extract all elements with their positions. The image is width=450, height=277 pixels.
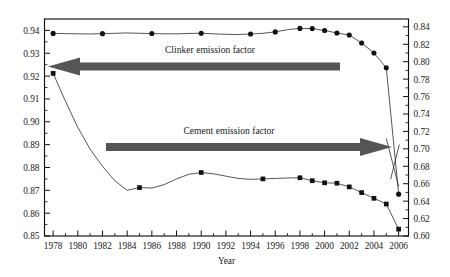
callout-line-clinker [386, 138, 398, 186]
left-axis-tick-label: 0.88 [23, 163, 40, 173]
series-marker-square [261, 177, 266, 182]
series-marker-circle [248, 31, 253, 36]
series-marker-circle [371, 50, 376, 55]
series-marker-circle [384, 65, 389, 70]
series-marker-square [199, 170, 204, 175]
series-marker-circle [51, 31, 56, 36]
x-axis-tick-label: 2002 [340, 241, 359, 251]
series-marker-square [384, 202, 389, 207]
x-axis-tick-label: 2004 [365, 241, 384, 251]
right-axis-tick-label: 0.72 [414, 127, 431, 137]
series-marker-circle [297, 26, 302, 31]
series-marker-circle [334, 30, 339, 35]
x-axis-title-group: Year [218, 256, 236, 266]
right-axis-tick-label: 0.62 [414, 214, 431, 224]
cement-arrow-shape [106, 138, 392, 156]
right-axis-tick-label: 0.66 [414, 179, 431, 189]
series-marker-square [298, 175, 303, 180]
series-marker-square [51, 71, 56, 76]
x-axis-tick-label: 1998 [291, 241, 310, 251]
series-marker-square [335, 181, 340, 186]
left-axis-tick-label: 0.91 [23, 94, 40, 104]
series-line-2 [53, 73, 398, 229]
left-axis-group: 0.850.860.870.880.890.900.910.920.930.94 [23, 26, 50, 242]
series-marker-circle [396, 192, 401, 197]
right-axis-tick-label: 0.60 [414, 231, 431, 241]
series-marker-circle [347, 33, 352, 38]
right-axis-tick-label: 0.80 [414, 57, 431, 67]
x-axis-title: Year [218, 256, 236, 266]
x-axis-group: 1978198019821984198619881990199219941996… [44, 231, 408, 251]
series-marker-square [372, 196, 377, 201]
x-axis-tick-label: 1994 [241, 241, 260, 251]
callout-line-cement [391, 144, 400, 179]
left-axis-tick-label: 0.93 [23, 49, 40, 59]
left-axis-tick-label: 0.85 [23, 231, 40, 241]
chart-canvas: 0.850.860.870.880.890.900.910.920.930.94… [0, 0, 450, 277]
x-axis-tick-label: 2006 [389, 241, 408, 251]
left-axis-tick-label: 0.86 [23, 209, 40, 219]
x-axis-tick-label: 1984 [118, 241, 137, 251]
cement-series-label: Cement emission factor [183, 125, 275, 136]
annotations-group: Clinker emission factorCement emission f… [48, 44, 392, 157]
series-marker-circle [322, 28, 327, 33]
right-axis-tick-label: 0.78 [414, 75, 431, 85]
x-axis-tick-label: 1978 [44, 241, 63, 251]
series-marker-circle [100, 31, 105, 36]
emission-factor-chart: 0.850.860.870.880.890.900.910.920.930.94… [0, 0, 450, 277]
x-axis-tick-label: 1982 [93, 241, 112, 251]
right-axis-tick-label: 0.84 [414, 22, 431, 32]
left-axis-tick-label: 0.87 [23, 186, 40, 196]
right-axis-tick-label: 0.64 [414, 197, 431, 207]
right-axis-group: 0.600.620.640.660.680.700.720.740.760.78… [403, 22, 430, 241]
series-marker-circle [273, 29, 278, 34]
right-axis-tick-label: 0.76 [414, 92, 431, 102]
series-marker-square [322, 180, 327, 185]
right-axis-tick-label: 0.70 [414, 144, 431, 154]
series-marker-circle [359, 40, 364, 45]
right-axis-tick-label: 0.74 [414, 109, 431, 119]
left-axis-tick-label: 0.94 [23, 26, 40, 36]
series-marker-circle [149, 31, 154, 36]
x-axis-tick-label: 1992 [217, 241, 236, 251]
x-axis-tick-label: 1996 [266, 241, 285, 251]
x-axis-tick-label: 1988 [167, 241, 186, 251]
clinker-arrow-shape [48, 58, 340, 76]
right-axis-tick-label: 0.68 [414, 162, 431, 172]
clinker-series-label: Clinker emission factor [165, 44, 256, 55]
left-axis-tick-label: 0.92 [23, 72, 40, 82]
series-marker-square [359, 190, 364, 195]
series-marker-square [310, 178, 315, 183]
series-marker-square [347, 185, 352, 190]
right-axis-tick-label: 0.82 [414, 40, 431, 50]
x-axis-tick-label: 2000 [315, 241, 334, 251]
series-marker-square [396, 227, 401, 232]
series-marker-square [137, 185, 142, 190]
x-axis-tick-label: 1990 [192, 241, 211, 251]
x-axis-tick-label: 1986 [143, 241, 162, 251]
series-marker-circle [199, 31, 204, 36]
x-axis-tick-label: 1980 [69, 241, 88, 251]
left-axis-tick-label: 0.89 [23, 140, 40, 150]
series-marker-circle [310, 26, 315, 31]
left-axis-tick-label: 0.90 [23, 117, 40, 127]
